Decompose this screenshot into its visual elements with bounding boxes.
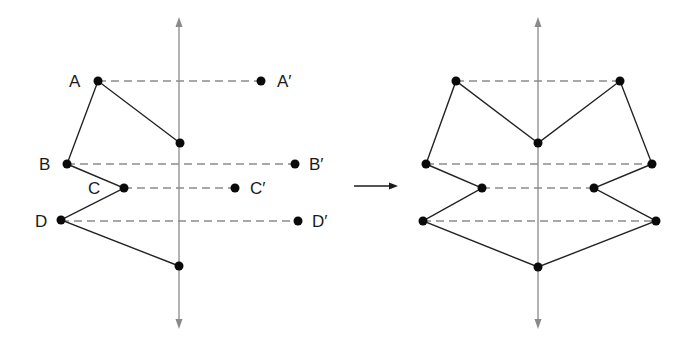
- right-point-d: [419, 217, 428, 226]
- label-b-prime: B′: [309, 155, 324, 174]
- right-point-b: [422, 160, 431, 169]
- transform-arrow: [354, 183, 398, 190]
- point-d: [57, 216, 66, 225]
- label-d: D: [35, 212, 47, 231]
- label-c-prime: C′: [250, 179, 265, 198]
- right-point-a-prime: [616, 77, 625, 86]
- point-b: [63, 160, 72, 169]
- right-point-b-prime: [648, 160, 657, 169]
- right-arrow-icon: [389, 183, 398, 190]
- point-c-prime: [231, 184, 240, 193]
- left-symmetry-axis: [176, 17, 183, 329]
- point-c: [120, 184, 129, 193]
- point-b-prime: [291, 160, 300, 169]
- right-axis-up-arrow-icon: [535, 17, 542, 27]
- label-d-prime: D′: [312, 212, 327, 231]
- point-top-axis: [176, 139, 185, 148]
- label-a: A: [69, 72, 81, 91]
- reflection-diagram: A B C D A′ B′ C′ D′: [0, 0, 691, 356]
- label-c: C: [88, 179, 100, 198]
- point-bottom-axis: [175, 262, 184, 271]
- left-axis-up-arrow-icon: [176, 17, 183, 27]
- point-d-prime: [294, 217, 303, 226]
- left-axis-down-arrow-icon: [176, 319, 183, 329]
- label-a-prime: A′: [277, 72, 292, 91]
- right-panel: [419, 17, 661, 329]
- left-half-figure: [61, 81, 180, 266]
- point-a-prime: [257, 77, 266, 86]
- left-panel: A B C D A′ B′ C′ D′: [35, 17, 327, 329]
- label-b: B: [39, 155, 50, 174]
- completed-symmetric-figure: [423, 81, 656, 267]
- right-point-top-axis: [534, 139, 543, 148]
- right-point-a: [452, 77, 461, 86]
- right-point-c-prime: [590, 184, 599, 193]
- point-a: [94, 77, 103, 86]
- right-point-d-prime: [652, 217, 661, 226]
- right-point-bottom-axis: [534, 263, 543, 272]
- right-symmetry-axis: [535, 17, 542, 329]
- right-axis-down-arrow-icon: [535, 319, 542, 329]
- right-point-c: [478, 184, 487, 193]
